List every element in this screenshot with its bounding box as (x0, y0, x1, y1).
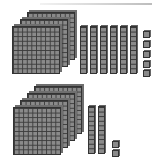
one-unit (143, 61, 150, 68)
one-unit (112, 150, 119, 157)
one-unit (112, 141, 119, 148)
ten-rod (100, 26, 107, 74)
one-unit (143, 41, 150, 48)
ten-rod (90, 26, 97, 74)
ten-rod (88, 106, 95, 154)
one-unit (143, 31, 150, 38)
hundred-flat (13, 107, 61, 155)
ten-rod (110, 26, 117, 74)
one-unit (143, 70, 150, 77)
one-unit (143, 51, 150, 58)
ten-rod (130, 26, 137, 74)
ten-rod (80, 26, 87, 74)
top-rule-line (40, 3, 152, 5)
ten-rod (120, 26, 127, 74)
hundred-flat (12, 26, 60, 74)
ten-rod (98, 106, 105, 154)
